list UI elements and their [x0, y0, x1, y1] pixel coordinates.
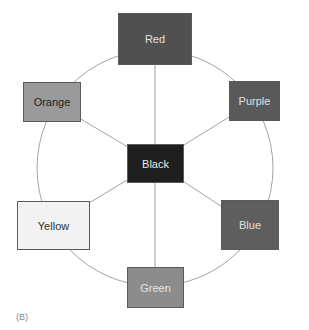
- node-red-label: Red: [145, 33, 165, 45]
- node-yellow-label: Yellow: [38, 220, 69, 232]
- node-orange-label: Orange: [34, 96, 71, 108]
- node-blue-label: Blue: [239, 219, 261, 231]
- node-red: Red: [118, 13, 192, 65]
- node-green: Green: [127, 267, 184, 308]
- node-purple-label: Purple: [239, 95, 271, 107]
- node-black-label: Black: [142, 158, 169, 170]
- node-green-label: Green: [140, 282, 171, 294]
- figure-caption: (B): [16, 312, 28, 322]
- node-yellow: Yellow: [17, 201, 90, 250]
- node-purple: Purple: [229, 81, 280, 121]
- node-blue: Blue: [221, 200, 279, 250]
- node-orange: Orange: [23, 82, 81, 122]
- node-black-center: Black: [127, 144, 184, 183]
